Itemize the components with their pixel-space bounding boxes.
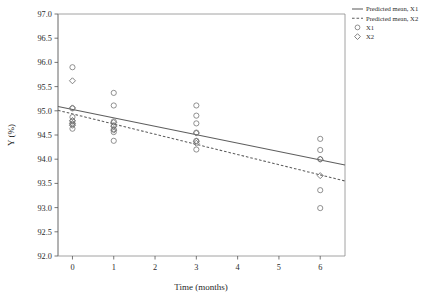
x-tick-label: 3 (194, 263, 198, 272)
data-point-x1 (194, 103, 199, 108)
y-tick-label: 94.0 (37, 155, 52, 164)
x-tick-label: 2 (153, 263, 157, 272)
data-point-x1 (318, 147, 323, 152)
data-point-x2 (69, 78, 75, 84)
y-axis-title: Y (%) (6, 124, 16, 146)
y-tick-label: 93.5 (37, 179, 52, 188)
data-point-x1 (111, 138, 116, 143)
data-point-x1 (194, 147, 199, 152)
data-point-x1 (111, 90, 116, 95)
y-tick-label: 97.0 (37, 10, 52, 19)
data-point-x1 (70, 65, 75, 70)
series-layer (58, 65, 345, 211)
y-tick-label: 94.5 (37, 131, 52, 140)
trend-line-x2 (58, 110, 345, 181)
x-axis-ticks: 0123456 (70, 256, 322, 272)
x-tick-label: 6 (318, 263, 322, 272)
legend-label-obs-x1: X1 (366, 24, 374, 31)
plot-frame (58, 14, 345, 256)
y-tick-label: 96.5 (37, 34, 52, 43)
x-tick-label: 4 (236, 263, 241, 272)
trend-line-x1 (58, 106, 345, 165)
legend-swatch-diamond-icon (355, 34, 361, 40)
y-tick-label: 92.0 (37, 252, 52, 261)
legend-label-pred-mean-x1: Predicted mean, X1 (366, 5, 418, 12)
x-tick-label: 0 (70, 263, 74, 272)
y-tick-label: 95.5 (37, 83, 52, 92)
legend-label-obs-x2: X2 (366, 33, 374, 40)
data-point-x1 (318, 205, 323, 210)
x-axis-title: Time (months) (174, 282, 227, 292)
chart-figure: 92.092.593.093.594.094.595.095.596.096.5… (0, 0, 424, 303)
x-tick-label: 5 (277, 263, 281, 272)
data-point-x1 (318, 188, 323, 193)
legend-label-pred-mean-x2: Predicted mean, X2 (366, 15, 418, 22)
y-tick-label: 96.0 (37, 58, 52, 67)
chart-legend: Predicted mean, X1Predicted mean, X2X1X2 (352, 5, 418, 40)
data-point-x1 (318, 136, 323, 141)
y-axis-ticks: 92.092.593.093.594.094.595.095.596.096.5… (37, 10, 58, 261)
data-point-x1 (194, 113, 199, 118)
legend-swatch-circle-icon (355, 25, 360, 30)
y-tick-label: 93.0 (37, 204, 52, 213)
y-tick-label: 95.0 (37, 107, 52, 116)
data-point-x1 (194, 121, 199, 126)
x-tick-label: 1 (112, 263, 116, 272)
scatter-plot-canvas: 92.092.593.093.594.094.595.095.596.096.5… (0, 0, 424, 303)
data-point-x1 (111, 103, 116, 108)
y-tick-label: 92.5 (37, 228, 52, 237)
